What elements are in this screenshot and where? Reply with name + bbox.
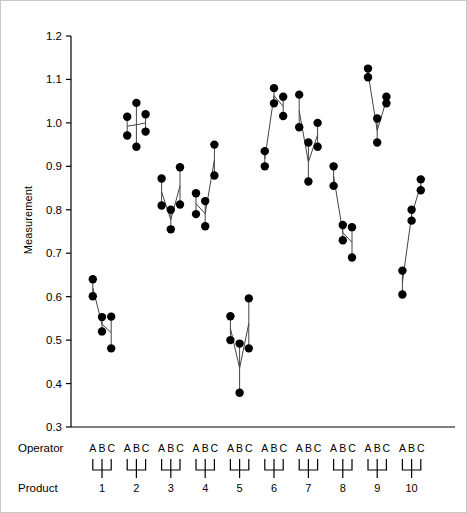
operator-tick-label: C (211, 442, 219, 454)
y-axis-tick-label: 0.4 (46, 378, 63, 390)
product-tick-label: 6 (271, 482, 277, 494)
operator-tick-label: C (142, 442, 150, 454)
data-point (348, 223, 356, 231)
data-point (295, 123, 303, 131)
data-point (270, 99, 278, 107)
data-point (107, 312, 115, 320)
operator-tick-label: B (202, 442, 209, 454)
data-point (373, 114, 381, 122)
data-point (141, 110, 149, 118)
data-point (398, 266, 406, 274)
chart-page: Measurement 0.30.40.50.60.70.80.91.01.11… (0, 0, 467, 513)
data-point (329, 182, 337, 190)
y-axis-tick-label: 0.9 (46, 160, 62, 172)
multivari-chart-svg: 0.30.40.50.60.70.80.91.01.11.2OperatorPr… (0, 0, 467, 513)
data-point (382, 99, 390, 107)
data-point (245, 344, 253, 352)
data-point (295, 90, 303, 98)
data-point (226, 336, 234, 344)
operator-tick-label: B (167, 442, 174, 454)
operator-tick-label: A (158, 442, 165, 454)
data-point (167, 206, 175, 214)
data-point (279, 93, 287, 101)
operator-tick-label: A (261, 442, 268, 454)
data-point (407, 206, 415, 214)
y-axis-tick-label: 0.5 (46, 334, 62, 346)
data-point (210, 140, 218, 148)
operator-tick-label: A (227, 442, 234, 454)
data-point (226, 312, 234, 320)
y-axis-tick-label: 0.7 (46, 247, 62, 259)
operator-tick-label: A (192, 442, 199, 454)
data-point (261, 147, 269, 155)
data-point (210, 171, 218, 179)
data-point (304, 138, 312, 146)
data-point (261, 162, 269, 170)
data-point (123, 113, 131, 121)
data-point (107, 344, 115, 352)
data-point (279, 112, 287, 120)
data-point (235, 339, 243, 347)
product-tick-label: 7 (305, 482, 311, 494)
data-point (157, 201, 165, 209)
data-point (373, 138, 381, 146)
operator-tick-label: A (124, 442, 131, 454)
data-point (176, 163, 184, 171)
data-point (123, 131, 131, 139)
operator-tick-label: A (330, 442, 337, 454)
operator-tick-label: B (305, 442, 312, 454)
data-point (245, 294, 253, 302)
data-point (157, 174, 165, 182)
data-point (201, 197, 209, 205)
data-point (89, 292, 97, 300)
y-axis-tick-label: 1.0 (46, 117, 62, 129)
operator-tick-label: C (245, 442, 253, 454)
data-point (176, 200, 184, 208)
product-row-label: Product (18, 482, 58, 494)
y-axis-tick-label: 0.6 (46, 291, 62, 303)
y-axis-tick-label: 1.1 (46, 73, 62, 85)
operator-tick-label: B (98, 442, 105, 454)
data-point (313, 119, 321, 127)
operator-tick-label: A (399, 442, 406, 454)
data-point (398, 290, 406, 298)
data-point (364, 73, 372, 81)
operator-tick-label: B (133, 442, 140, 454)
operator-tick-label: C (383, 442, 391, 454)
data-point (339, 236, 347, 244)
operator-tick-label: C (314, 442, 322, 454)
operator-tick-label: C (348, 442, 356, 454)
product-tick-label: 10 (405, 482, 417, 494)
data-point (313, 143, 321, 151)
data-point (348, 253, 356, 261)
product-tick-label: 1 (99, 482, 105, 494)
data-point (407, 216, 415, 224)
operator-tick-label: B (270, 442, 277, 454)
data-point (417, 186, 425, 194)
operator-tick-label: B (408, 442, 415, 454)
operator-tick-label: A (364, 442, 371, 454)
product-tick-label: 3 (168, 482, 174, 494)
data-point (192, 210, 200, 218)
data-point (98, 327, 106, 335)
data-point (417, 175, 425, 183)
data-point (132, 143, 140, 151)
y-axis-tick-label: 0.3 (46, 421, 62, 433)
data-point (339, 221, 347, 229)
product-tick-label: 4 (202, 482, 208, 494)
operator-tick-label: B (374, 442, 381, 454)
data-point (167, 225, 175, 233)
data-point (304, 177, 312, 185)
product-tick-label: 5 (237, 482, 243, 494)
data-point (192, 189, 200, 197)
operator-tick-label: C (417, 442, 425, 454)
operator-tick-label: A (296, 442, 303, 454)
operator-tick-label: C (279, 442, 287, 454)
data-point (98, 313, 106, 321)
data-point (364, 64, 372, 72)
data-point (132, 99, 140, 107)
product-tick-label: 8 (340, 482, 346, 494)
product-tick-label: 9 (374, 482, 380, 494)
product-tick-label: 2 (133, 482, 139, 494)
data-point (329, 162, 337, 170)
